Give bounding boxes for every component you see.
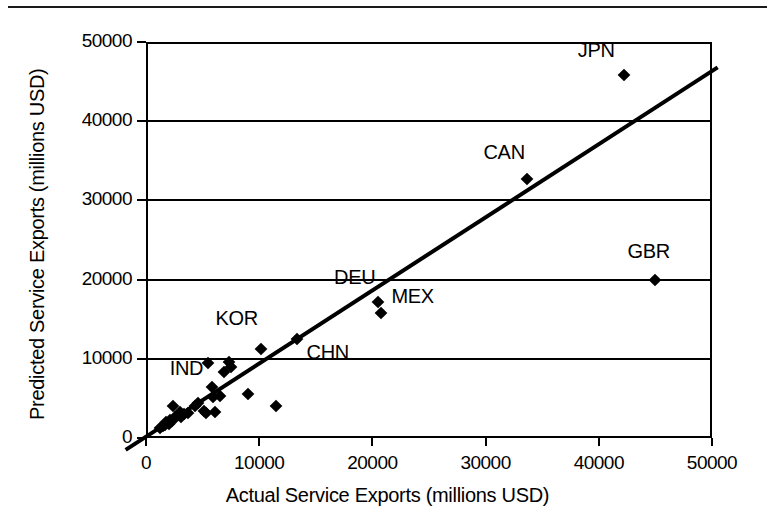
x-tick-label-20000: 20000	[312, 452, 432, 474]
point-label-jpn: JPN	[578, 39, 615, 62]
y-tick-10000	[137, 358, 146, 360]
gridline-y-20000	[146, 279, 712, 281]
x-tick-30000	[485, 438, 487, 446]
point-label-ind: IND	[170, 357, 204, 380]
y-tick-label-50000: 50000	[22, 30, 132, 52]
y-tick-20000	[137, 279, 146, 281]
scatter-plot-figure: 01000020000300004000050000 0100002000030…	[0, 0, 775, 530]
point-label-can: CAN	[483, 141, 524, 164]
point-label-mex: MEX	[391, 285, 433, 308]
point-label-kor: KOR	[215, 307, 257, 330]
y-tick-50000	[137, 41, 146, 43]
y-axis-title: Predicted Service Exports (millions USD)	[26, 69, 49, 420]
x-tick-10000	[258, 438, 260, 446]
x-tick-20000	[371, 438, 373, 446]
point-label-chn: CHN	[307, 341, 349, 364]
y-tick-label-0: 0	[22, 426, 132, 448]
point-label-deu: DEU	[334, 266, 375, 289]
x-tick-label-10000: 10000	[199, 452, 319, 474]
x-tick-50000	[711, 438, 713, 446]
point-label-gbr: GBR	[627, 240, 669, 263]
gridline-y-30000	[146, 199, 712, 201]
y-tick-0	[137, 437, 146, 439]
gridline-y-40000	[146, 120, 712, 122]
y-tick-30000	[137, 199, 146, 201]
x-axis-title: Actual Service Exports (millions USD)	[0, 484, 775, 507]
page-divider-rule	[8, 6, 767, 8]
x-tick-label-50000: 50000	[652, 452, 772, 474]
x-tick-40000	[598, 438, 600, 446]
x-tick-0	[145, 438, 147, 446]
x-tick-label-40000: 40000	[539, 452, 659, 474]
x-tick-label-0: 0	[86, 452, 206, 474]
x-tick-label-30000: 30000	[426, 452, 546, 474]
y-tick-40000	[137, 120, 146, 122]
